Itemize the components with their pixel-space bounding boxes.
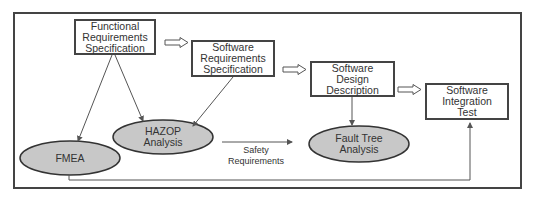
software-integration-test-box: Software Integration Test — [425, 83, 509, 120]
fault-tree-analysis-label: Fault Tree Analysis — [309, 126, 409, 162]
safety-requirements-label: Safety Requirements — [216, 145, 296, 167]
hazop-analysis-label: HAZOP Analysis — [113, 120, 213, 154]
functional-requirements-specification-box: Functional Requirements Specification — [74, 19, 156, 55]
software-design-description-box: Software Design Description — [310, 61, 395, 97]
software-requirements-specification-box: Software Requirements Specification — [191, 40, 275, 77]
fmea-label: FMEA — [20, 141, 120, 175]
